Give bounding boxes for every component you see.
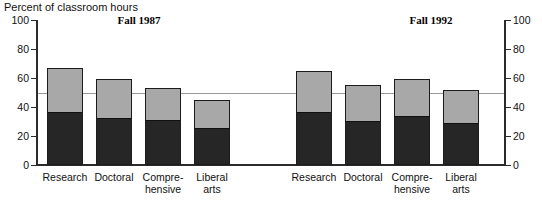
y-tick-right-60 xyxy=(506,78,511,79)
bar-segment-upper xyxy=(146,89,180,122)
y-tick-label-right-40: 40 xyxy=(513,102,542,112)
y-tick-label-left-0: 0 xyxy=(0,160,29,170)
bar-segment-upper xyxy=(346,86,380,122)
bar-segment-lower xyxy=(395,116,429,164)
bar-segment-lower xyxy=(146,120,180,164)
bar-0 xyxy=(296,71,332,165)
x-axis-label-3: Liberal arts xyxy=(426,172,496,195)
y-tick-label-left-100: 100 xyxy=(0,15,29,25)
y-tick-left-40 xyxy=(31,107,36,108)
y-tick-right-100 xyxy=(506,20,511,21)
chart-container: Percent of classroom hours Fall 1987 Fal… xyxy=(0,0,542,206)
y-tick-right-20 xyxy=(506,136,511,137)
bar-1 xyxy=(96,79,132,165)
y-tick-label-right-20: 20 xyxy=(513,131,542,141)
bar-segment-upper xyxy=(444,91,478,126)
y-tick-left-20 xyxy=(31,136,36,137)
bar-0 xyxy=(47,68,83,165)
y-tick-left-60 xyxy=(31,78,36,79)
x-axis-label-3: Liberal arts xyxy=(177,172,247,195)
y-tick-label-right-80: 80 xyxy=(513,44,542,54)
y-tick-right-80 xyxy=(506,49,511,50)
bar-segment-upper xyxy=(395,80,429,118)
y-tick-label-left-20: 20 xyxy=(0,131,29,141)
y-tick-left-100 xyxy=(31,20,36,21)
bar-segment-lower xyxy=(195,128,229,164)
y-tick-left-0 xyxy=(31,165,36,166)
y-tick-label-right-100: 100 xyxy=(513,15,542,25)
bar-segment-lower xyxy=(444,123,478,164)
y-tick-label-left-60: 60 xyxy=(0,73,29,83)
bar-segment-lower xyxy=(97,118,131,164)
bar-segment-lower xyxy=(346,121,380,165)
y-tick-label-right-60: 60 xyxy=(513,73,542,83)
y-tick-label-left-40: 40 xyxy=(0,102,29,112)
bar-2 xyxy=(394,79,430,165)
y-axis-right xyxy=(504,20,506,166)
bar-segment-upper xyxy=(297,72,331,114)
y-tick-left-80 xyxy=(31,49,36,50)
bar-3 xyxy=(443,90,479,165)
y-tick-right-40 xyxy=(506,107,511,108)
bar-segment-lower xyxy=(48,112,82,164)
bar-segment-lower xyxy=(297,112,331,164)
bar-1 xyxy=(345,85,381,165)
plot-area: 100806040200 100806040200 ResearchDoctor… xyxy=(0,0,542,206)
y-tick-label-right-0: 0 xyxy=(513,160,542,170)
y-tick-label-left-80: 80 xyxy=(0,44,29,54)
bar-3 xyxy=(194,100,230,165)
y-tick-right-0 xyxy=(506,165,511,166)
bar-segment-upper xyxy=(48,69,82,114)
bar-segment-upper xyxy=(97,80,131,119)
bar-segment-upper xyxy=(195,101,229,130)
bar-2 xyxy=(145,88,181,165)
